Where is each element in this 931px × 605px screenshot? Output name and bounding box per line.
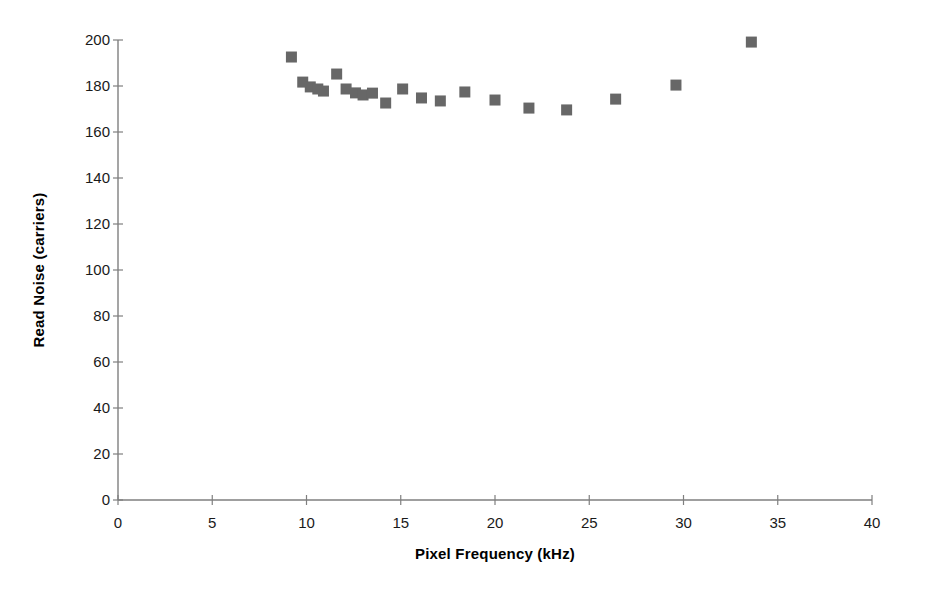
data-point-marker: [331, 69, 342, 80]
data-point-marker: [610, 94, 621, 105]
axis-lines: [118, 40, 872, 500]
data-point-marker: [523, 103, 534, 114]
data-point-marker: [358, 89, 369, 100]
data-point-marker: [490, 95, 501, 106]
data-point-marker: [435, 95, 446, 106]
data-point-marker: [670, 80, 681, 91]
data-point-marker: [380, 98, 391, 109]
scatter-series-markers: [286, 37, 757, 116]
plot-canvas: [0, 0, 931, 605]
data-point-marker: [318, 86, 329, 97]
data-point-marker: [561, 104, 572, 115]
data-point-marker: [746, 37, 757, 48]
data-point-marker: [341, 83, 352, 94]
data-point-marker: [286, 52, 297, 63]
data-point-marker: [416, 92, 427, 103]
data-point-marker: [397, 83, 408, 94]
data-point-marker: [367, 88, 378, 99]
chart-figure: Read Noise (carriers) Pixel Frequency (k…: [0, 0, 931, 605]
data-point-marker: [459, 86, 470, 97]
